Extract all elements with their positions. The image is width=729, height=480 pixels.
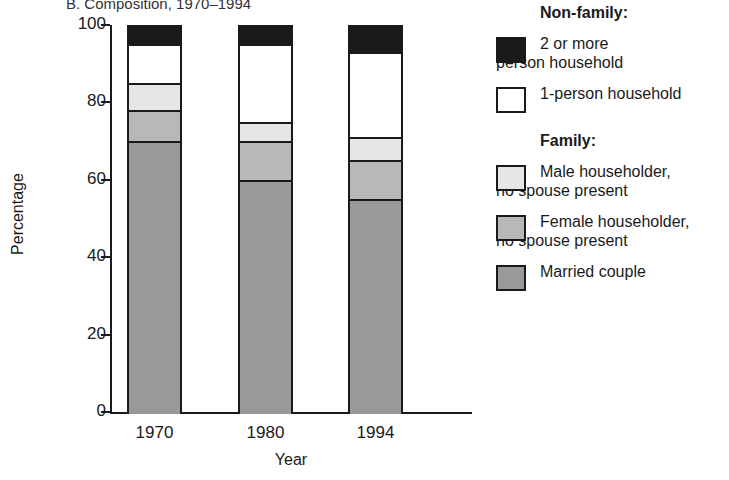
y-axis-line [110, 25, 112, 414]
bar-segment [240, 143, 291, 182]
y-axis-tick-label: 80 [60, 91, 106, 111]
bar-1994 [348, 25, 403, 414]
y-axis-tick-label: 60 [60, 169, 106, 189]
legend-swatch [496, 37, 526, 63]
stacked-bar-chart-figure: B. Composition, 1970–1994 Percentage 020… [0, 0, 729, 480]
bar-segment [240, 124, 291, 143]
legend-swatch [496, 215, 526, 241]
x-axis-title: Year [110, 451, 472, 469]
chart-legend: Non-family:2 or more person household1-p… [496, 0, 729, 292]
y-axis-tick-label: 0 [60, 401, 106, 421]
legend-swatch [496, 265, 526, 291]
x-axis-tick-label-1970: 1970 [110, 423, 200, 443]
legend-item[interactable]: 2 or more person household [496, 34, 729, 72]
legend-heading: Non-family: [540, 4, 729, 22]
bar-segment [129, 112, 180, 143]
x-axis-tick-label-1994: 1994 [331, 423, 421, 443]
bar-segment [350, 162, 401, 201]
legend-item[interactable]: Male householder, no spouse present [496, 162, 729, 200]
y-axis-tick-label: 40 [60, 246, 106, 266]
bar-segment [240, 182, 291, 414]
plot-area: 020406080100 197019801994 [110, 25, 470, 413]
bar-1980 [238, 25, 293, 414]
bar-segment [129, 143, 180, 414]
chart-title: B. Composition, 1970–1994 [66, 0, 251, 12]
bar-segment [350, 54, 401, 139]
bar-1970 [127, 25, 182, 414]
legend-item[interactable]: 1-person household [496, 84, 729, 114]
y-axis-tick-label: 100 [60, 14, 106, 34]
legend-swatch [496, 165, 526, 191]
legend-heading: Family: [540, 132, 729, 150]
bar-segment [350, 139, 401, 162]
legend-item[interactable]: Married couple [496, 262, 729, 292]
bar-segment [129, 85, 180, 112]
y-axis-tick-label: 20 [60, 324, 106, 344]
bar-segment [129, 46, 180, 85]
bar-segment [240, 27, 291, 46]
bar-segment [129, 27, 180, 46]
x-axis-tick-label-1980: 1980 [221, 423, 311, 443]
bar-segment [350, 27, 401, 54]
legend-item-label: Married couple [540, 263, 646, 280]
bar-segment [350, 201, 401, 414]
legend-item-label: 1-person household [540, 85, 681, 102]
y-axis-title: Percentage [9, 134, 27, 294]
legend-item[interactable]: Female householder, no spouse present [496, 212, 729, 250]
legend-swatch [496, 87, 526, 113]
bar-segment [240, 46, 291, 123]
